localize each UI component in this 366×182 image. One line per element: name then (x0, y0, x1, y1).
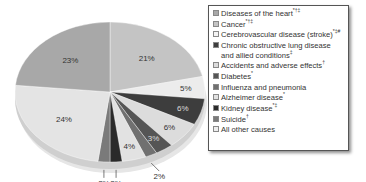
legend-label: Influenza and pneumonia (221, 83, 306, 92)
legend-label: Alzheimer disease* (221, 93, 285, 102)
legend: Diseases of the heart*†‡Cancer*†‡Cerebro… (208, 5, 349, 151)
legend-item: Chronic obstructive lung disease and all… (213, 41, 344, 60)
legend-label: Suicide† (221, 115, 249, 124)
legend-item: Accidents and adverse effects† (213, 61, 344, 70)
legend-label: Diseases of the heart*†‡ (221, 9, 300, 18)
legend-swatch (213, 10, 219, 16)
slice-label: 6% (177, 103, 189, 112)
slice-label: 21% (139, 54, 155, 63)
legend-swatch (213, 116, 219, 122)
legend-label: Cerebrovascular disease (stroke)*‡# (221, 30, 340, 39)
legend-swatch (213, 31, 219, 37)
legend-item: Diseases of the heart*†‡ (213, 9, 344, 18)
legend-label: Accidents and adverse effects† (221, 61, 325, 70)
legend-swatch (213, 105, 219, 111)
legend-label: All other causes (221, 125, 275, 134)
slice-label: 3% (148, 133, 160, 142)
legend-item: Cerebrovascular disease (stroke)*‡# (213, 30, 344, 39)
pie-chart: 21%5%6%6%3%2%4%2%2%24%23% (0, 0, 210, 182)
legend-label: Chronic obstructive lung disease and all… (221, 41, 344, 60)
legend-swatch (213, 62, 219, 68)
legend-item: Influenza and pneumonia (213, 83, 344, 92)
slice-label: 2% (110, 178, 122, 182)
slice-label: 2% (98, 178, 110, 182)
legend-swatch (213, 42, 219, 48)
legend-item: Diabetes* (213, 72, 344, 81)
legend-swatch (213, 126, 219, 132)
slice-label: 5% (180, 84, 192, 93)
slice-label: 2% (153, 172, 165, 181)
slice-label: 4% (123, 142, 135, 151)
slice-label: 23% (62, 55, 78, 64)
legend-item: Alzheimer disease* (213, 93, 344, 102)
legend-swatch (213, 84, 219, 90)
pie-graphic (0, 0, 210, 182)
legend-label: Diabetes* (221, 72, 253, 81)
legend-swatch (213, 21, 219, 27)
legend-label: Cancer*†‡ (221, 20, 253, 29)
legend-label: Kidney disease*‡ (221, 104, 277, 113)
legend-item: Cancer*†‡ (213, 20, 344, 29)
slice-label: 24% (56, 115, 72, 124)
legend-item: All other causes (213, 125, 344, 134)
legend-swatch (213, 94, 219, 100)
legend-item: Suicide† (213, 115, 344, 124)
slice-label: 6% (164, 122, 176, 131)
legend-item: Kidney disease*‡ (213, 104, 344, 113)
legend-swatch (213, 73, 219, 79)
